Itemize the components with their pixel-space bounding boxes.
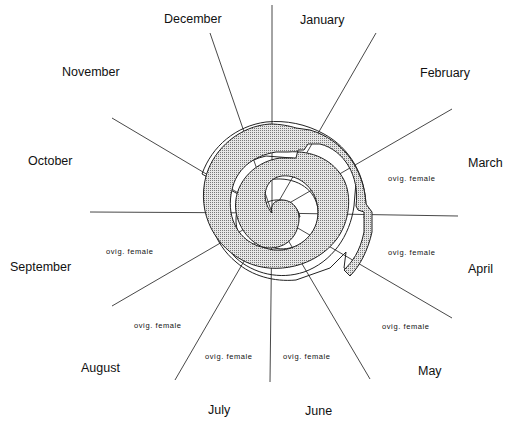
month-label-may: May <box>418 364 442 378</box>
month-label-september: September <box>10 260 71 274</box>
annotation-ovig-female: ovig. female <box>382 322 430 331</box>
month-label-july: July <box>208 403 230 417</box>
month-label-february: February <box>420 66 470 80</box>
annotation-ovig-female: ovig. female <box>106 247 154 256</box>
spiral-shape <box>203 124 372 276</box>
annotation-ovig-female: ovig. female <box>134 321 182 330</box>
month-label-april: April <box>468 262 493 276</box>
month-label-november: November <box>62 65 120 79</box>
annotation-ovig-female: ovig. female <box>388 248 436 257</box>
annotation-ovig-female: ovig. female <box>388 174 436 183</box>
month-label-january: January <box>300 13 344 27</box>
month-label-august: August <box>81 361 120 375</box>
annotation-ovig-female: ovig. female <box>205 352 253 361</box>
annotation-ovig-female: ovig. female <box>283 352 331 361</box>
month-label-march: March <box>468 156 503 170</box>
month-label-december: December <box>164 12 222 26</box>
month-label-october: October <box>28 154 72 168</box>
month-label-june: June <box>305 404 332 418</box>
